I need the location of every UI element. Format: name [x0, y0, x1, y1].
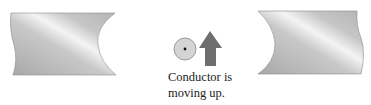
left-magnet-pole [10, 13, 116, 75]
caption: Conductor is moving up. [168, 69, 258, 101]
right-magnet-pole [258, 11, 364, 74]
caption-line-1: Conductor is [168, 69, 258, 85]
arrow-up-icon [199, 31, 222, 66]
current-dot-icon [184, 48, 187, 51]
caption-line-2: moving up. [168, 85, 258, 101]
